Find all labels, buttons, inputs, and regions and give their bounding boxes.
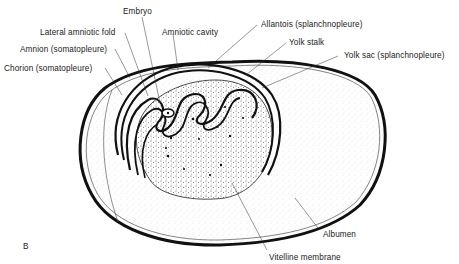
- panel-letter: B: [23, 243, 29, 251]
- label-yolk-stalk: Yolk stalk: [289, 39, 324, 47]
- label-vitelline-membrane: Vitelline membrane: [269, 254, 341, 262]
- label-chorion: Chorion (somatopleure): [4, 65, 92, 73]
- label-amnion: Amnion (somatopleure): [20, 46, 107, 54]
- label-amniotic-cavity: Amniotic cavity: [162, 29, 218, 37]
- label-embryo: Embryo: [123, 8, 152, 16]
- label-yolk-sac: Yolk sac (splanchnopleure): [344, 52, 445, 60]
- egg-cross-section-diagram: Embryo Lateral amniotic fold Amniotic ca…: [0, 0, 459, 264]
- label-allantois: Allantois (splanchnopleure): [261, 21, 362, 29]
- label-lateral-amniotic-fold: Lateral amniotic fold: [40, 29, 115, 37]
- label-albumen: Albumen: [323, 231, 356, 239]
- diagram-drawing: [0, 0, 459, 264]
